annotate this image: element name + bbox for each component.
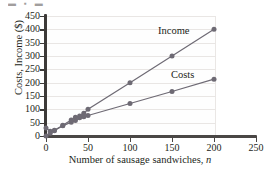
data-point xyxy=(128,101,133,106)
chart-figure: ▬ ▪ ▬ Costs, Income ($) 450 400 350 300 … xyxy=(0,0,267,169)
data-point xyxy=(212,27,217,32)
data-point xyxy=(44,126,49,131)
data-point xyxy=(77,114,82,119)
series-costs-markers xyxy=(44,77,217,134)
data-point xyxy=(69,118,74,123)
data-point xyxy=(52,128,57,133)
series-layer xyxy=(0,0,267,169)
series-label-costs: Costs xyxy=(171,69,194,80)
data-point xyxy=(44,134,49,139)
data-point xyxy=(60,123,65,128)
series-label-income: Income xyxy=(158,25,190,36)
series-costs xyxy=(44,77,217,134)
data-point xyxy=(48,131,53,136)
data-point xyxy=(212,77,217,82)
data-point xyxy=(86,107,91,112)
data-point xyxy=(128,80,133,85)
data-point xyxy=(170,89,175,94)
data-point xyxy=(170,54,175,59)
data-point xyxy=(81,111,86,116)
series-income xyxy=(44,27,217,139)
